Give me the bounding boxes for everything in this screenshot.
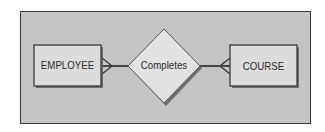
entity-label-course: COURSE — [234, 60, 293, 72]
entity-label-employee: EMPLOYEE — [38, 59, 97, 71]
relationship-label-completes: Completes — [132, 59, 195, 71]
